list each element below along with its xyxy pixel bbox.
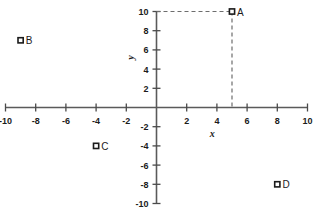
y-axis-tick-label: -6 [140,161,148,171]
data-point-label-c: C [101,141,108,152]
y-axis-tick-label: 6 [143,45,148,55]
x-axis-tick-label: -2 [122,116,130,126]
x-axis-tick-label: -10 [0,116,12,126]
y-axis-tick-label: -2 [140,122,148,132]
x-axis-tick-label: -6 [62,116,70,126]
y-axis-tick-label: -10 [135,199,148,209]
x-axis-tick-label: 8 [275,116,280,126]
coordinate-plane-figure: -10-8-6-4-2246810108642-2-4-6-8-10xyABCD [0,0,333,216]
y-axis-tick-label: 2 [143,84,148,94]
y-axis-label: y [126,55,137,61]
y-axis-tick-label: 10 [138,7,148,17]
y-axis-tick-label: -4 [140,141,148,151]
data-point-label-a: A [237,7,244,18]
data-point-label-d: D [282,179,289,190]
data-point-marker-c[interactable] [94,143,99,148]
x-axis-tick-label: 2 [184,116,189,126]
cartesian-plot: -10-8-6-4-2246810108642-2-4-6-8-10xyABCD [0,0,333,216]
x-axis-tick-label: -4 [92,116,100,126]
x-axis-tick-label: 6 [245,116,250,126]
x-axis-tick-label: -8 [32,116,40,126]
x-axis-label: x [209,128,215,139]
data-point-label-b: B [26,35,33,46]
data-point-marker-d[interactable] [275,182,280,187]
y-axis-tick-label: -8 [140,180,148,190]
y-axis-tick-label: 8 [143,26,148,36]
x-axis-tick-label: 4 [214,116,219,126]
x-axis-tick-label: 10 [302,116,312,126]
data-point-marker-a[interactable] [229,9,234,14]
data-point-marker-b[interactable] [18,38,23,43]
y-axis-tick-label: 4 [143,65,148,75]
